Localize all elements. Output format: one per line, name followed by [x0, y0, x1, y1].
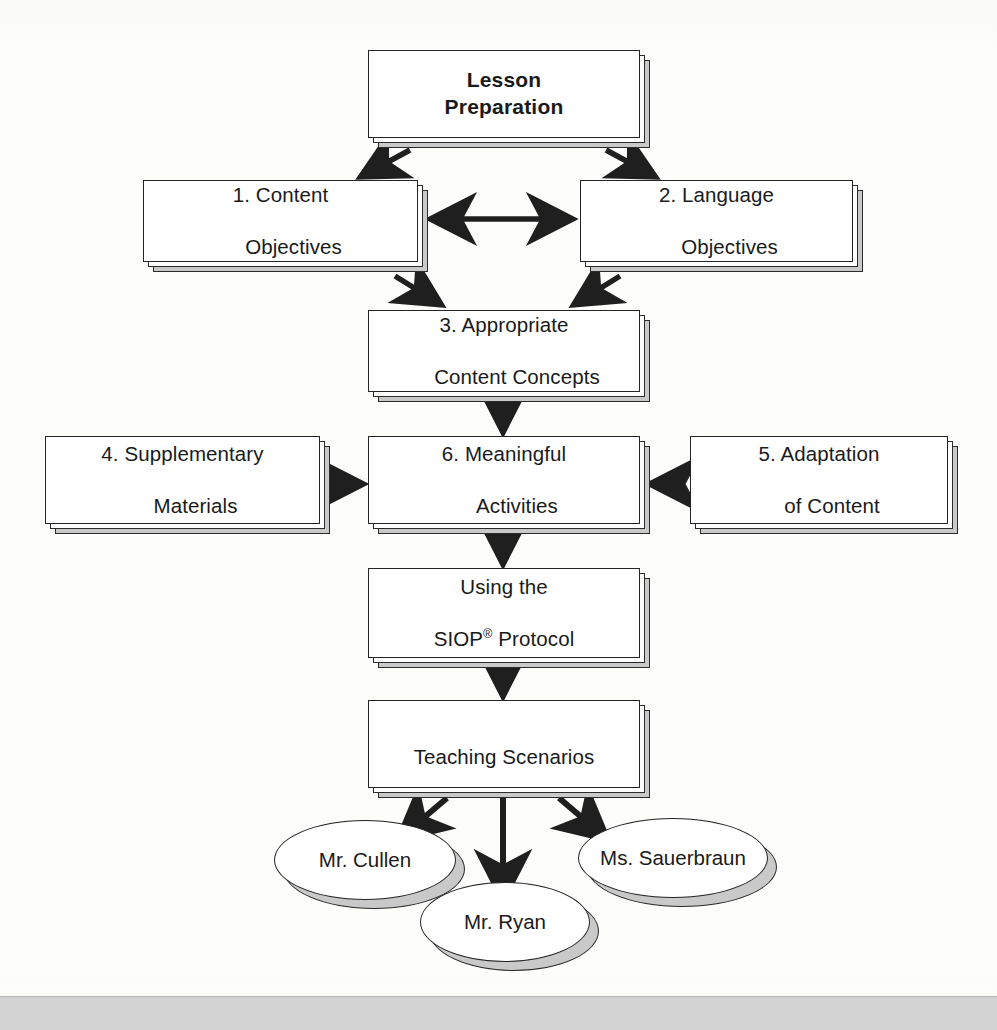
node-label-line2: Materials [101, 493, 263, 519]
box-face: Teaching Scenarios [368, 700, 640, 788]
node-label-line2: Preparation [445, 94, 564, 121]
node-label: Using the SIOP® Protocol [426, 547, 583, 678]
node-label: 5. Adaptation of Content [750, 414, 888, 545]
node-label: 6. Meaningful Activities [434, 414, 574, 545]
node-supplementary-materials[interactable]: 4. Supplementary Materials [45, 436, 320, 524]
node-content-objectives[interactable]: 1. Content Objectives [143, 180, 418, 262]
node-label-line1: 4. Supplementary [101, 441, 263, 467]
box-face: 6. Meaningful Activities [368, 436, 640, 524]
registered-trademark-icon: ® [483, 626, 492, 641]
node-label-line1: 2. Language [655, 182, 778, 208]
ellipse-label: Mr. Ryan [464, 910, 546, 934]
node-using-siop-protocol[interactable]: Using the SIOP® Protocol [368, 568, 640, 658]
node-label-line2: Objectives [655, 234, 778, 260]
node-label-line2: Content Concepts [408, 364, 600, 390]
node-label: 2. Language Objectives [647, 155, 786, 286]
box-face: 1. Content Objectives [143, 180, 418, 262]
node-label-line1: 1. Content [219, 182, 342, 208]
protocol-word: Protocol [493, 627, 575, 650]
ellipse-label: Ms. Sauerbraun [600, 846, 746, 870]
edge-prep-to-content [362, 150, 410, 176]
ellipse-label: Mr. Cullen [319, 848, 411, 872]
ellipse-face: Ms. Sauerbraun [578, 818, 768, 898]
node-adaptation-of-content[interactable]: 5. Adaptation of Content [690, 436, 948, 524]
node-label-line2: Activities [442, 493, 566, 519]
node-label: 3. Appropriate Content Concepts [400, 285, 608, 416]
node-mr-ryan[interactable]: Mr. Ryan [420, 882, 590, 962]
box-face: 3. Appropriate Content Concepts [368, 310, 640, 392]
node-label-line1: 3. Appropriate [408, 312, 600, 338]
node-language-objectives[interactable]: 2. Language Objectives [580, 180, 853, 262]
node-label: 1. Content Objectives [211, 155, 350, 286]
box-face: 5. Adaptation of Content [690, 436, 948, 524]
node-label-line1: 5. Adaptation [758, 441, 880, 467]
box-face: 2. Language Objectives [580, 180, 853, 262]
node-ms-sauerbraun[interactable]: Ms. Sauerbraun [578, 818, 768, 898]
node-appropriate-content-concepts[interactable]: 3. Appropriate Content Concepts [368, 310, 640, 392]
node-label-line2: SIOP® Protocol [434, 626, 575, 652]
node-label-line2: Objectives [219, 234, 342, 260]
node-label-line1: Teaching Scenarios [414, 745, 595, 768]
siop-word: SIOP [434, 627, 483, 650]
node-teaching-scenarios[interactable]: Teaching Scenarios [368, 700, 640, 788]
node-label: Lesson Preparation [437, 40, 572, 148]
ellipse-face: Mr. Ryan [420, 882, 590, 962]
node-meaningful-activities[interactable]: 6. Meaningful Activities [368, 436, 640, 524]
node-label-line1: Using the [434, 574, 575, 600]
node-label-line2: of Content [758, 493, 880, 519]
node-label: Teaching Scenarios [406, 718, 603, 770]
box-face: Lesson Preparation [368, 50, 640, 138]
node-label: 4. Supplementary Materials [93, 414, 271, 545]
node-label-line1: 6. Meaningful [442, 441, 566, 467]
box-face: Using the SIOP® Protocol [368, 568, 640, 658]
bottom-gray-band [0, 996, 997, 1030]
diagram-page: Lesson Preparation 1. Content Objectives… [0, 0, 997, 1030]
node-lesson-preparation[interactable]: Lesson Preparation [368, 50, 640, 138]
node-label-line1: Lesson [467, 68, 542, 91]
box-face: 4. Supplementary Materials [45, 436, 320, 524]
